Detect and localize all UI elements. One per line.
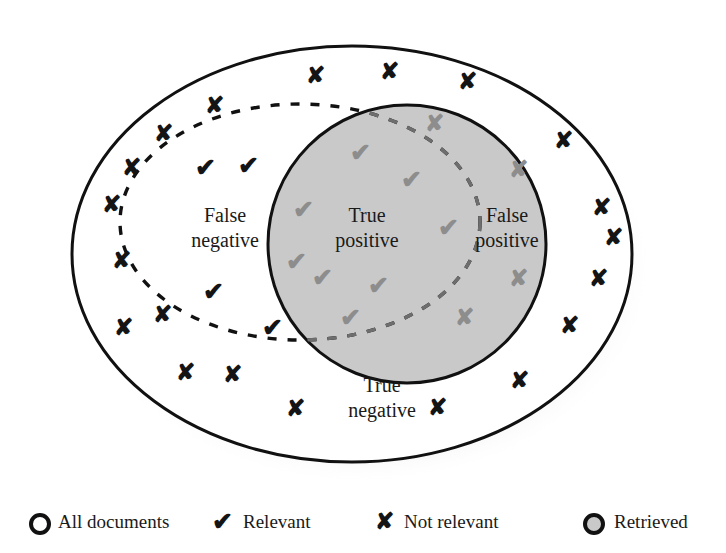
legend-label-not-relevant: Not relevant [404, 511, 499, 532]
circle-filled-icon [585, 515, 603, 533]
mark-not-relevant: ✘ [592, 195, 611, 220]
mark-not-relevant: ✘ [306, 63, 325, 88]
mark-not-relevant: ✘ [380, 59, 399, 84]
mark-not-relevant: ✘ [554, 128, 573, 153]
region-label-line2: positive [335, 229, 398, 252]
mark-not-relevant: ✘ [205, 93, 224, 118]
mark-relevant: ✔ [340, 304, 361, 331]
mark-not-relevant: ✘ [102, 192, 121, 217]
mark-not-relevant: ✘ [153, 302, 172, 327]
legend-item-retrieved[interactable]: Retrieved [585, 511, 688, 533]
region-label-line2: negative [348, 399, 416, 422]
mark-not-relevant: ✘ [428, 395, 447, 420]
mark-not-relevant: ✘ [510, 368, 529, 393]
mark-not-relevant: ✘ [176, 360, 195, 385]
region-label-line1: True [363, 374, 400, 396]
venn-diagram: FalsenegativeTruepositiveFalsepositiveTr… [0, 0, 726, 553]
mark-not-relevant: ✘ [286, 396, 305, 421]
mark-relevant: ✔ [293, 196, 314, 223]
mark-not-relevant: ✘ [509, 266, 528, 291]
mark-relevant: ✔ [286, 248, 307, 275]
mark-not-relevant: ✘ [122, 155, 141, 180]
legend-item-all-documents[interactable]: All documents [31, 511, 169, 533]
mark-relevant: ✔ [401, 166, 422, 193]
mark-not-relevant: ✘ [425, 111, 444, 136]
mark-relevant: ✔ [350, 139, 371, 166]
region-label-line1: True [348, 204, 385, 226]
legend-item-relevant[interactable]: ✔Relevant [212, 508, 312, 535]
circle-outline-icon [31, 515, 49, 533]
legend-label-retrieved: Retrieved [614, 511, 688, 532]
region-label-line1: False [486, 204, 528, 226]
mark-not-relevant: ✘ [560, 313, 579, 338]
mark-relevant: ✔ [195, 154, 216, 181]
legend-label-all-documents: All documents [58, 511, 169, 532]
mark-not-relevant: ✘ [509, 157, 528, 182]
mark-relevant: ✔ [262, 314, 283, 341]
mark-not-relevant: ✘ [114, 315, 133, 340]
mark-not-relevant: ✘ [154, 121, 173, 146]
mark-relevant: ✔ [368, 272, 389, 299]
legend-label-relevant: Relevant [243, 511, 311, 532]
mark-not-relevant: ✘ [589, 266, 608, 291]
mark-relevant: ✔ [238, 152, 259, 179]
cross-icon: ✘ [375, 509, 394, 534]
region-label-line2: negative [191, 229, 259, 252]
check-icon: ✔ [212, 508, 233, 535]
diagram-canvas: FalsenegativeTruepositiveFalsepositiveTr… [0, 0, 726, 553]
region-label-line1: False [204, 204, 246, 226]
mark-not-relevant: ✘ [455, 305, 474, 330]
mark-relevant: ✔ [438, 214, 459, 241]
region-label-line2: positive [475, 229, 538, 252]
legend-item-not-relevant[interactable]: ✘Not relevant [375, 509, 500, 534]
mark-not-relevant: ✘ [112, 248, 131, 273]
mark-relevant: ✔ [203, 278, 224, 305]
mark-not-relevant: ✘ [604, 225, 623, 250]
mark-not-relevant: ✘ [458, 69, 477, 94]
mark-not-relevant: ✘ [223, 362, 242, 387]
mark-relevant: ✔ [312, 264, 333, 291]
legend: All documents✔Relevant✘Not relevantRetri… [31, 508, 688, 535]
